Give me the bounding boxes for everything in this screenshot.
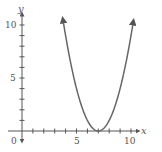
x-axis-label: x bbox=[141, 125, 147, 136]
parabola-curve bbox=[63, 20, 133, 131]
x-axis bbox=[8, 129, 138, 134]
x-tick-10: 10 bbox=[124, 136, 136, 146]
y-axis bbox=[20, 14, 25, 141]
y-tick-5: 5 bbox=[10, 73, 16, 83]
y-axis-label: y bbox=[17, 3, 24, 14]
origin-label: 0 bbox=[11, 136, 17, 146]
x-tick-5: 5 bbox=[74, 136, 80, 146]
parabola-chart: x y 0 5 10 5 10 bbox=[0, 0, 162, 152]
y-tick-10: 10 bbox=[5, 20, 17, 30]
